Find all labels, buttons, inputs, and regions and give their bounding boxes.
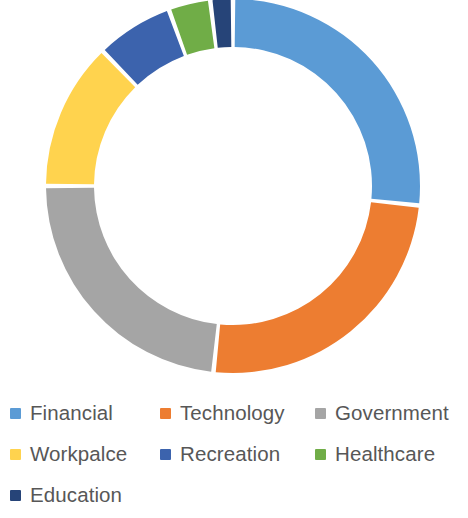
legend-swatch-icon xyxy=(10,490,21,501)
chart-plot-area xyxy=(0,0,468,388)
legend-item-healthcare[interactable]: Healthcare xyxy=(315,444,468,465)
legend-item-label: Recreation xyxy=(180,444,280,465)
doughnut-chart: FinancialTechnologyGovernmentWorkpalceRe… xyxy=(0,0,468,518)
legend-item-education[interactable]: Education xyxy=(10,485,160,506)
donut-slice-government[interactable] xyxy=(46,188,217,372)
legend-swatch-icon xyxy=(10,449,21,460)
legend-swatch-icon xyxy=(160,449,171,460)
legend-item-label: Financial xyxy=(30,403,113,424)
donut-slice-technology[interactable] xyxy=(216,202,419,373)
legend-item-label: Workpalce xyxy=(30,444,127,465)
donut-slice-financial[interactable] xyxy=(235,0,420,203)
legend-grid: FinancialTechnologyGovernmentWorkpalceRe… xyxy=(10,393,464,516)
doughnut-svg xyxy=(0,0,468,388)
legend-item-label: Government xyxy=(335,403,449,424)
legend-item-label: Healthcare xyxy=(335,444,435,465)
legend-swatch-icon xyxy=(315,449,326,460)
legend-swatch-icon xyxy=(315,408,326,419)
legend-item-recreation[interactable]: Recreation xyxy=(160,444,315,465)
legend-item-label: Technology xyxy=(180,403,285,424)
legend-item-financial[interactable]: Financial xyxy=(10,403,160,424)
chart-legend: FinancialTechnologyGovernmentWorkpalceRe… xyxy=(0,393,468,518)
legend-swatch-icon xyxy=(10,408,21,419)
legend-item-technology[interactable]: Technology xyxy=(160,403,315,424)
legend-item-government[interactable]: Government xyxy=(315,403,468,424)
donut-slice-workpalce[interactable] xyxy=(46,53,135,184)
legend-item-label: Education xyxy=(30,485,122,506)
legend-item-workpalce[interactable]: Workpalce xyxy=(10,444,160,465)
legend-swatch-icon xyxy=(160,408,171,419)
donut-slice-education[interactable] xyxy=(212,0,231,48)
